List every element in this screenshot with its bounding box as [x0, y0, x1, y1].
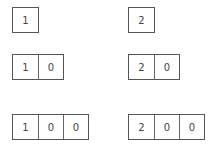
- digit-cell: 2: [129, 115, 154, 139]
- digit-cell: 0: [38, 115, 63, 139]
- number-box-1: 1: [12, 7, 39, 33]
- digit-cell: 0: [38, 55, 63, 79]
- number-box-2: 2: [128, 7, 155, 33]
- digit-cell: 2: [129, 55, 154, 79]
- number-box-20: 2 0: [128, 54, 180, 80]
- number-box-10: 1 0: [12, 54, 64, 80]
- digit-cell: 0: [154, 55, 179, 79]
- digit-cell: 0: [154, 115, 179, 139]
- number-box-200: 2 0 0: [128, 114, 205, 140]
- digit-cell: 0: [179, 115, 204, 139]
- digit-cell: 1: [13, 115, 38, 139]
- digit-cell: 1: [13, 55, 38, 79]
- digit-cell: 1: [13, 8, 38, 32]
- digit-cell: 2: [129, 8, 154, 32]
- number-box-100: 1 0 0: [12, 114, 89, 140]
- digit-cell: 0: [63, 115, 88, 139]
